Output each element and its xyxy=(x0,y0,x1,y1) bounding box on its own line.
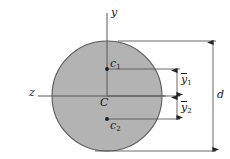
z-axis-label: z xyxy=(29,87,35,98)
ybar2-letter: y xyxy=(181,101,187,114)
point-c1 xyxy=(105,67,109,71)
ybar1-overbar-wrap: y xyxy=(181,74,187,85)
centroid-c1-label: c1 xyxy=(110,58,121,71)
ybar1-letter: y xyxy=(181,73,187,86)
ybar1-subscript: 1 xyxy=(187,79,191,87)
centroid-c2-subscript: 2 xyxy=(116,125,120,133)
y-axis-label: y xyxy=(111,7,117,18)
point-c2 xyxy=(105,117,109,121)
figure-circular-centroids: y z c1 C c2 y1 y2 d xyxy=(0,0,230,159)
ybar2-overbar-wrap: y xyxy=(181,102,187,113)
dimension-ybar1-label: y1 xyxy=(181,74,192,87)
dimension-ybar2-label: y2 xyxy=(181,102,192,115)
diagram-canvas xyxy=(0,0,230,159)
centroid-c1-subscript: 1 xyxy=(116,63,120,71)
ybar1-overbar xyxy=(181,73,187,74)
ybar2-overbar xyxy=(181,101,187,102)
centroid-C-label: C xyxy=(100,97,108,108)
dimension-d-label: d xyxy=(217,89,224,100)
ybar2-subscript: 2 xyxy=(187,107,191,115)
centroid-c2-label: c2 xyxy=(110,120,121,133)
